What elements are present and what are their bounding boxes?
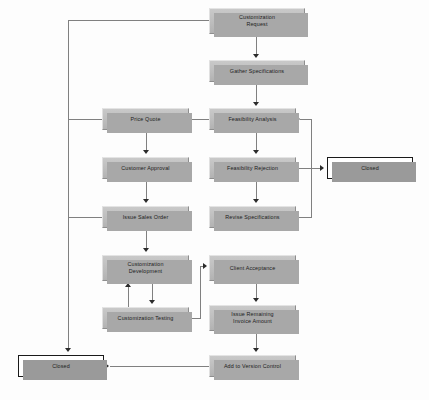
node-issue-remaining-invoice-amount[interactable]: Issue RemainingInvoice Amount <box>209 305 296 331</box>
edge-pricequote-to-approval <box>146 130 147 150</box>
arrowhead-down-feasibility <box>253 102 259 106</box>
arrowhead-right-acceptance <box>203 263 207 269</box>
node-label: CustomizationDevelopment <box>124 261 166 275</box>
edge-approval-to-salesorder <box>146 179 147 199</box>
edge-rejection-to-closed <box>296 168 321 169</box>
node-label: Issue RemainingInvoice Amount <box>228 311 276 325</box>
arrowhead-down-development <box>143 248 149 252</box>
arrowhead-down-revise <box>253 199 259 203</box>
arrowhead-down-closedleft <box>65 348 71 352</box>
edge-spine-to-pricequote <box>68 119 103 120</box>
node-client-acceptance[interactable]: Client Acceptance <box>209 255 296 281</box>
node-label: CustomizationRequest <box>236 14 278 28</box>
arrowhead-down-testing <box>149 300 155 304</box>
node-customization-development[interactable]: CustomizationDevelopment <box>102 255 189 281</box>
node-feasibility-analysis[interactable]: Feasibility Analysis <box>209 108 296 130</box>
node-add-to-version-control[interactable]: Add to Version Control <box>209 355 296 377</box>
node-customization-request[interactable]: CustomizationRequest <box>209 8 305 34</box>
node-feasibility-rejection[interactable]: Feasibility Rejection <box>209 157 296 179</box>
edge-revise-riser <box>311 119 312 218</box>
node-gather-specifications[interactable]: Gather Specifications <box>209 60 305 82</box>
node-label: Price Quote <box>127 116 163 123</box>
edge-revise-to-feasibility <box>300 119 312 120</box>
arrowhead-down-salesorder <box>143 199 149 203</box>
edge-versioncontrol-to-closed <box>110 366 209 367</box>
node-label: Feasibility Analysis <box>225 116 279 123</box>
node-issue-sales-order[interactable]: Issue Sales Order <box>102 206 189 228</box>
node-label: Gather Specifications <box>227 68 287 75</box>
arrowhead-right-closed <box>320 165 324 171</box>
node-price-quote[interactable]: Price Quote <box>102 108 189 130</box>
edge-testing-to-development <box>128 287 129 307</box>
node-label: Revise Specifications <box>222 214 282 221</box>
edge-request-left-stub <box>68 20 210 21</box>
edge-testing-riser <box>200 266 201 319</box>
node-label: Feasibility Rejection <box>224 165 281 172</box>
node-closed-right[interactable]: Closed <box>327 157 413 179</box>
node-customer-approval[interactable]: Customer Approval <box>102 157 189 179</box>
arrowhead-down-gather <box>253 54 259 58</box>
node-label: Customization Testing <box>115 315 177 322</box>
edge-request-to-gather <box>256 34 257 56</box>
edge-feasibility-to-rejection <box>256 130 257 150</box>
edge-request-left-spine <box>68 20 69 350</box>
node-customization-testing[interactable]: Customization Testing <box>102 307 189 329</box>
edge-rejection-to-revise <box>256 179 257 199</box>
arrowhead-down-rejection <box>253 150 259 154</box>
node-label: Add to Version Control <box>221 363 284 370</box>
edge-feasibility-to-pricequote <box>189 119 211 120</box>
node-label: Customer Approval <box>118 165 172 172</box>
edge-gather-to-feasibility <box>256 82 257 104</box>
arrowhead-down-approval <box>143 150 149 154</box>
arrowhead-down-versioncontrol <box>253 348 259 352</box>
edge-spine-to-salesorder <box>68 217 103 218</box>
arrowhead-down-invoice <box>253 298 259 302</box>
node-label: Closed <box>361 165 379 171</box>
edge-salesorder-to-development <box>146 228 147 248</box>
node-label: Issue Sales Order <box>120 214 172 221</box>
edge-development-to-testing <box>152 281 153 301</box>
node-label: Closed <box>52 363 70 369</box>
node-revise-specifications[interactable]: Revise Specifications <box>209 206 296 228</box>
node-label: Client Acceptance <box>227 265 279 272</box>
flowchart-canvas: CustomizationRequest Gather Specificatio… <box>0 0 429 400</box>
node-closed-left[interactable]: Closed <box>18 355 104 377</box>
